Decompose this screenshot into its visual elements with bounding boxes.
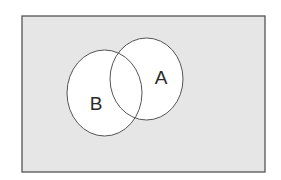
venn-diagram: B A <box>0 0 281 180</box>
set-a-label: A <box>155 67 168 88</box>
set-b-label: B <box>90 93 103 114</box>
